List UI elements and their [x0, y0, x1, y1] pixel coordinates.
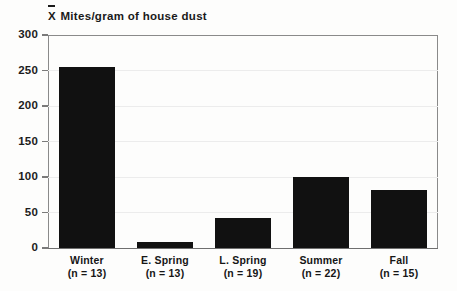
x-axis-label: Winter(n = 13): [48, 254, 126, 280]
x-axis-label: Summer(n = 22): [282, 254, 360, 280]
x-axis-sample-size: (n = 15): [360, 267, 438, 280]
x-axis-label: E. Spring(n = 13): [126, 254, 204, 280]
bar-chart-figure: X Mites/gram of house dust 0501001502002…: [0, 0, 457, 291]
x-axis-sample-size: (n = 13): [48, 267, 126, 280]
x-axis-category-name: E. Spring: [126, 254, 204, 267]
x-axis-category-name: Summer: [282, 254, 360, 267]
x-axis-category-name: Fall: [360, 254, 438, 267]
x-axis-sample-size: (n = 13): [126, 267, 204, 280]
x-axis-label: Fall(n = 15): [360, 254, 438, 280]
x-axis-sample-size: (n = 22): [282, 267, 360, 280]
x-axis-category-name: L. Spring: [204, 254, 282, 267]
x-axis-category-name: Winter: [48, 254, 126, 267]
x-axis-labels: Winter(n = 13)E. Spring(n = 13)L. Spring…: [0, 0, 457, 291]
x-axis-sample-size: (n = 19): [204, 267, 282, 280]
x-axis-label: L. Spring(n = 19): [204, 254, 282, 280]
